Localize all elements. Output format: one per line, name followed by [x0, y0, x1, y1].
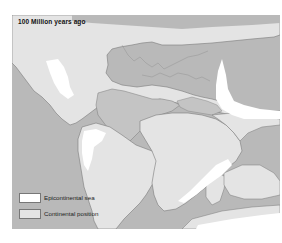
- legend-item-continental-position: Continental position: [19, 207, 98, 220]
- epicontinental-sea-swatch: [19, 193, 41, 203]
- legend-label: Continental position: [44, 210, 98, 217]
- map-title: 100 Million years ago: [18, 18, 86, 25]
- continental-position-swatch: [19, 209, 41, 219]
- legend-item-epicontinental-sea: Epicontinental sea: [19, 191, 98, 204]
- legend-label: Epicontinental sea: [44, 194, 95, 201]
- map-legend: Epicontinental sea Continental position: [19, 191, 98, 223]
- paleogeographic-map: 100 Million years ago Epicontinental sea…: [12, 15, 280, 229]
